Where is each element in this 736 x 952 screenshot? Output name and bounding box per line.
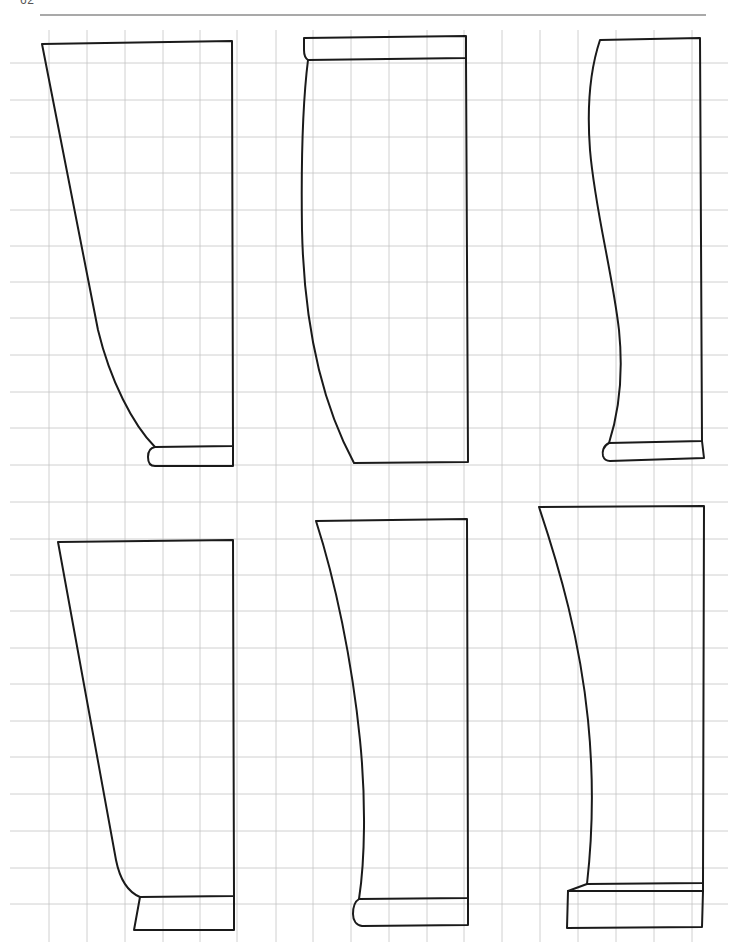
profile-bottom-right — [539, 506, 704, 928]
outline-path — [302, 58, 468, 463]
profile-top-right — [589, 38, 704, 461]
outline-path — [304, 36, 466, 60]
outline-path — [589, 38, 702, 443]
outline-path — [353, 898, 468, 926]
outline-path — [603, 441, 704, 461]
outline-path — [42, 41, 233, 447]
outline-path — [539, 506, 704, 884]
outline-path — [58, 540, 234, 897]
outline-path — [316, 519, 468, 899]
profile-bottom-center — [316, 519, 468, 926]
profile-drawings — [42, 36, 704, 930]
profile-top-left — [42, 41, 233, 466]
graph-paper-grid — [10, 30, 728, 942]
outline-path — [567, 891, 703, 928]
profile-bottom-left — [58, 540, 234, 930]
outline-path — [148, 446, 233, 466]
book-page: 62 — [0, 0, 736, 952]
outline-path — [134, 896, 234, 930]
drawing-canvas — [0, 0, 736, 952]
